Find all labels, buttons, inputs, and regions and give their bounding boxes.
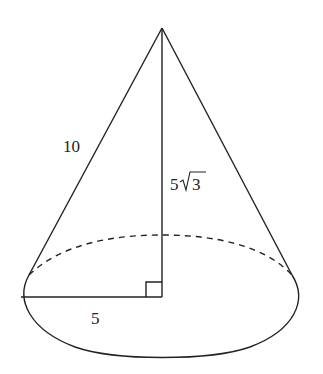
slant-height-label: 10 xyxy=(63,137,80,156)
base-ellipse-front xyxy=(24,275,299,358)
base-ellipse-back-dashed xyxy=(29,235,292,275)
height-label-radicand: 3 xyxy=(192,175,201,194)
left-slant-edge xyxy=(29,28,162,275)
height-label-coeff: 5 xyxy=(170,175,179,194)
height-label: 5 3 xyxy=(170,172,206,194)
right-angle-marker xyxy=(146,282,162,297)
right-slant-edge xyxy=(162,28,292,275)
radius-label: 5 xyxy=(91,309,100,328)
cone-diagram: 10 5 3 5 xyxy=(0,0,323,374)
